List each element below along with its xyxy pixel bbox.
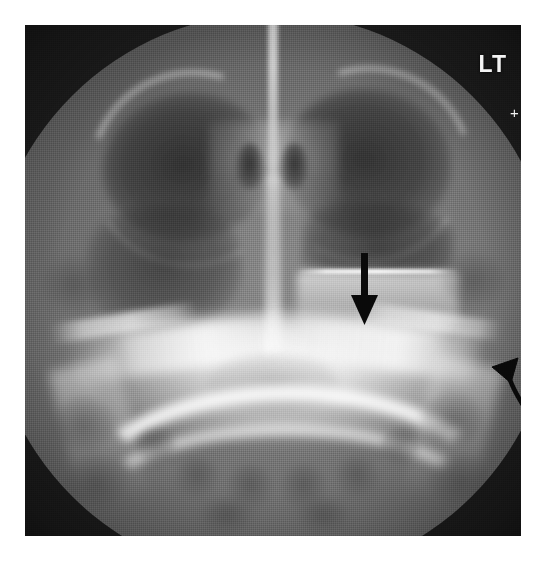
radiograph-viewer: LT + — [0, 0, 546, 561]
film-grain — [25, 25, 521, 536]
crosshair-marker-icon: + — [509, 107, 520, 118]
radiograph-image: LT + — [25, 25, 521, 536]
side-marker-lt: LT — [479, 53, 507, 76]
arrow-lateral-wall-icon — [487, 335, 521, 413]
arrow-air-fluid-level-icon — [343, 251, 387, 335]
